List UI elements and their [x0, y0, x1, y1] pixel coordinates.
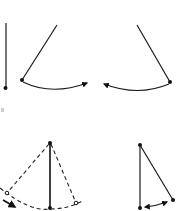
extreme-left-bob: [5, 191, 9, 195]
displaced-string: [140, 145, 173, 200]
motion-arrow-icon: [3, 200, 15, 207]
panel-rest: [4, 23, 8, 90]
panel-swing-left: [104, 25, 172, 91]
pendulum-string: [137, 25, 170, 82]
pendulum-diagram: [0, 0, 188, 211]
pendulum-string: [22, 25, 57, 80]
extreme-right-string: [51, 144, 76, 203]
panel-swing-right: [20, 25, 87, 89]
extreme-right-bob: [74, 201, 78, 205]
swing-arrow-icon: [104, 84, 169, 91]
panel-amplitude: [0, 141, 82, 210]
displaced-bob: [171, 198, 175, 202]
double-arrow-icon: [145, 202, 167, 207]
pendulum-bob: [168, 80, 172, 84]
pendulum-bob: [4, 86, 8, 90]
swing-arrow-icon: [23, 82, 87, 89]
scan-smudge: [1, 108, 4, 112]
panel-small-displacement: [138, 143, 175, 210]
extreme-left-string: [7, 144, 49, 193]
rest-bob: [138, 206, 142, 210]
pendulum-bob: [20, 78, 24, 82]
